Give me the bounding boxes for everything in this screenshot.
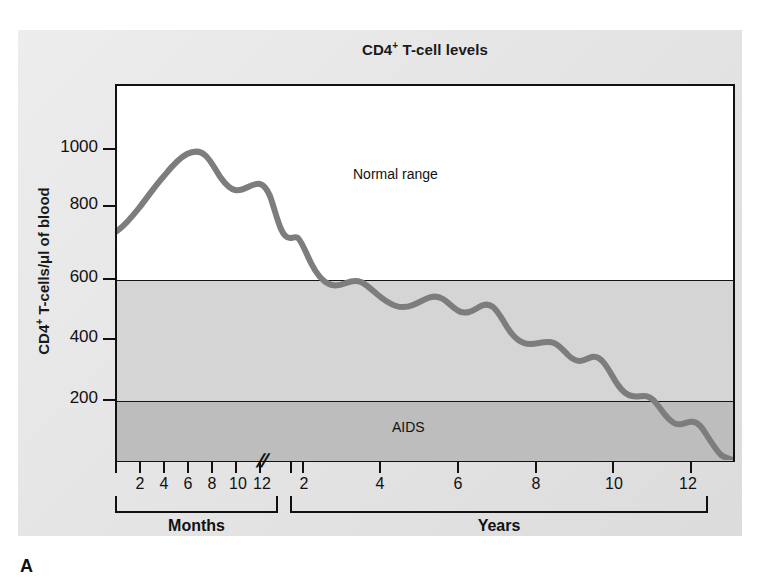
figure-cd4-tcell-levels: CA-125 serum markers CD4+ T-cell levels … [0,0,757,579]
y-tick-label-600: 600 [40,267,98,287]
x-label-years-6: 6 [454,475,463,493]
chart-title-rest: T-cell levels [398,41,488,58]
y-tick-800 [103,205,115,207]
y-tick-200 [103,399,115,401]
x-label-months-12: 12 [253,475,271,493]
x-tick-years-10 [612,462,614,473]
y-tick-label-400: 400 [40,327,98,347]
x-tick-years-8 [535,462,537,473]
chart-title-main: CD4 [362,41,392,58]
x-tick-months-8 [211,462,213,473]
x-axis-years: 2 4 6 8 10 12 Years [290,462,735,463]
x-axis-caption-years: Years [290,517,708,535]
x-tick-years-12 [690,462,692,473]
x-label-years-4: 4 [376,475,385,493]
x-tick-months-4 [163,462,165,473]
x-tick-months-10 [235,462,237,473]
x-tick-months-2 [139,462,141,473]
x-tick-months-start [115,462,117,473]
x-label-years-10: 10 [605,475,623,493]
x-tick-years-6 [457,462,459,473]
y-tick-1000 [103,148,115,150]
y-tick-400 [103,338,115,340]
cd4-count-curve [117,86,733,460]
x-label-years-12: 12 [679,475,697,493]
x-tick-years-4 [379,462,381,473]
x-label-months-10: 10 [229,475,247,493]
x-label-months-8: 8 [208,475,217,493]
x-axis-caption-months: Months [115,517,278,535]
y-tick-label-800: 800 [40,194,98,214]
y-tick-label-1000: 1000 [40,137,98,157]
y-tick-label-200: 200 [40,388,98,408]
y-axis-title-superscript: + [34,319,45,325]
x-tick-months-6 [187,462,189,473]
x-label-months-4: 4 [160,475,169,493]
x-label-months-6: 6 [184,475,193,493]
x-label-years-8: 8 [532,475,541,493]
x-axis-months: 2 4 6 8 10 12 Months [115,462,263,463]
cd4-curve-path [117,152,733,460]
x-label-years-2: 2 [300,475,309,493]
years-bracket [290,496,708,513]
x-label-months-2: 2 [136,475,145,493]
x-tick-years-start [290,462,292,473]
figure-letter-label: A [20,556,33,577]
y-tick-600 [103,278,115,280]
plot-area: Normal range AIDS [115,84,735,462]
x-tick-years-2 [302,462,304,473]
chart-title: CD4+ T-cell levels [115,40,735,58]
months-bracket [115,496,278,513]
